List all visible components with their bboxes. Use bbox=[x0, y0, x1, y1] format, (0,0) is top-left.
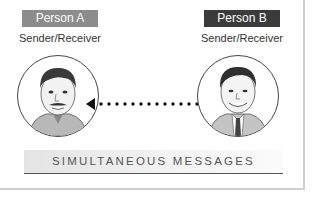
caption-banner: SIMULTANEOUS MESSAGES bbox=[24, 150, 283, 174]
person-a-role: Sender/Receiver bbox=[5, 32, 115, 44]
person-b-role: Sender/Receiver bbox=[187, 32, 297, 44]
person-b-portrait bbox=[197, 55, 279, 137]
person-b-label: Person B bbox=[204, 10, 280, 27]
man-with-tie-icon bbox=[198, 56, 278, 136]
person-a-label: Person A bbox=[22, 10, 98, 27]
